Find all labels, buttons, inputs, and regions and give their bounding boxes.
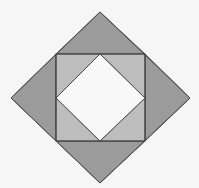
geometric-figure — [0, 0, 199, 188]
